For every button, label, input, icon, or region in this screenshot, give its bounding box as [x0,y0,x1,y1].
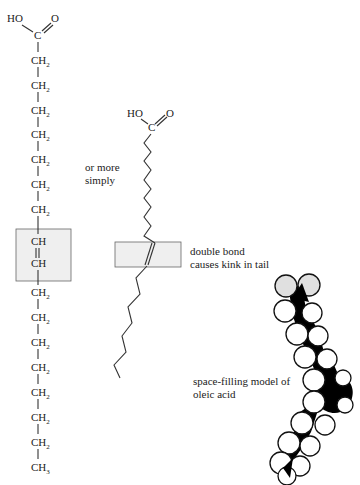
chain-row-terminal: CH3 [31,461,50,476]
or-more-simply-line2: simply [85,174,115,186]
chain-row: CH2 [31,361,50,384]
chain-row: CH2 [31,54,50,77]
space-filling-caption-line2: oleic acid [193,388,236,400]
space-filling-model: space-filling model of oleic acid [193,274,353,485]
svg-text:CH2: CH2 [31,336,50,351]
svg-text:CH2: CH2 [31,361,50,376]
svg-text:CH: CH [31,257,46,269]
svg-text:CH2: CH2 [31,436,50,451]
double-bond-note-line1: double bond [190,245,245,257]
chain-row: CH2 [31,79,50,102]
svg-text:CH2: CH2 [31,178,50,193]
svg-text:CH2: CH2 [31,79,50,94]
skeletal-carbon-label: C [148,121,155,133]
svg-text:CH2: CH2 [31,311,50,326]
chain-row: CH2 [31,436,50,459]
svg-text:CH: CH [31,235,46,247]
double-bond-note-line2: causes kink in tail [190,258,269,270]
svg-text:CH2: CH2 [31,386,50,401]
carbonyl-oxygen-label: O [51,12,59,24]
chain-row: CH2 [31,153,50,176]
chain-row: CH2 [31,411,50,434]
chain-row: CH2 [31,104,50,127]
hydroxyl-label: HO [7,12,23,24]
chain-row: CH2 [31,386,50,409]
svg-text:CH2: CH2 [31,286,50,301]
chain-row: CH2 [31,128,50,151]
skeletal-hydroxyl-label: HO [127,107,143,119]
svg-text:CH2: CH2 [31,128,50,143]
svg-text:CH3: CH3 [31,461,50,476]
chain-row: CH2 [31,286,50,309]
carboxyl-carbon-label: C [34,29,41,41]
chain-row: CH2 [31,311,50,334]
svg-text:CH2: CH2 [31,54,50,69]
oxygen-atom [275,275,297,297]
svg-text:CH2: CH2 [31,153,50,168]
svg-text:CH2: CH2 [31,104,50,119]
svg-text:CH2: CH2 [31,411,50,426]
skeletal-oxygen-label: O [166,107,174,119]
oleic-acid-diagram: HO O C CH2 CH2 CH2 CH2 CH2 CH2 CH2 CH CH… [0,0,360,485]
or-more-simply-line1: or more [85,161,120,173]
chain-row: CH2 [31,178,50,201]
space-filling-caption-line1: space-filling model of [193,375,290,387]
svg-text:CH2: CH2 [31,203,50,218]
chain-row: CH2 [31,336,50,359]
